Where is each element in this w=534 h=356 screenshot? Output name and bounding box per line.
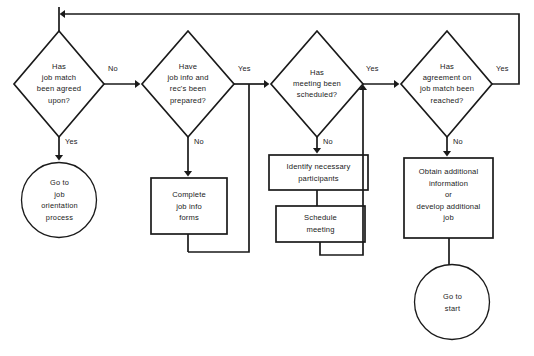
- flowchart-canvas: Has job match been agreed upon? Have job…: [0, 0, 534, 356]
- connector-decision-2-yes-down-rail: [188, 84, 249, 252]
- flowchart-shapes-and-connectors: [0, 0, 534, 356]
- terminator-go-to-start-shape: [415, 265, 490, 340]
- process-schedule-meeting-shape: [276, 206, 365, 242]
- process-obtain-additional-information-shape: [404, 158, 493, 238]
- decision-have-job-info-and-recs-been-prepared-shape: [142, 31, 234, 137]
- terminator-go-to-job-orientation-process-shape: [22, 163, 97, 238]
- connector-feedback-loop-rail: [63, 14, 519, 84]
- connector-schedule-meeting-loop-back: [320, 88, 363, 255]
- decision-has-job-match-been-agreed-upon-shape: [14, 31, 104, 137]
- decision-has-meeting-been-scheduled-shape: [271, 31, 363, 137]
- decision-has-agreement-on-job-match-been-reached-shape: [401, 31, 492, 137]
- process-identify-necessary-participants-shape: [269, 155, 368, 190]
- process-complete-job-info-forms-shape: [151, 178, 227, 234]
